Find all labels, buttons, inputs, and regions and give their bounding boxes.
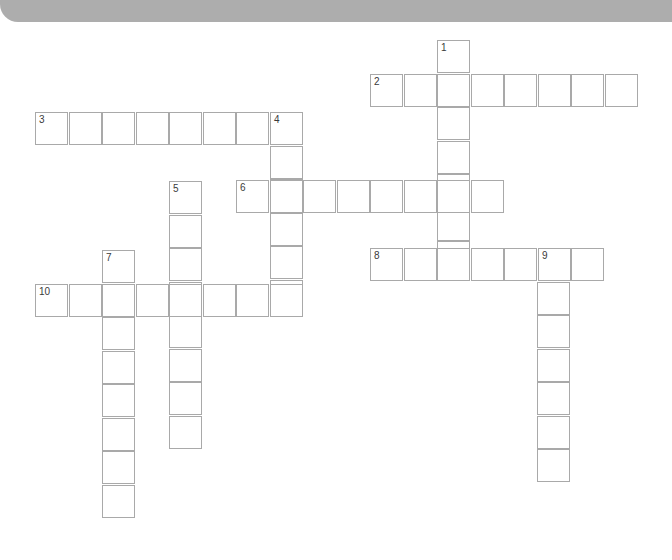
crossword-cell[interactable]	[303, 180, 336, 213]
crossword-cell[interactable]	[136, 284, 169, 317]
crossword-cell[interactable]	[471, 248, 504, 281]
crossword-cell[interactable]	[169, 284, 202, 317]
crossword-cell[interactable]	[102, 112, 135, 145]
crossword-cell[interactable]	[538, 74, 571, 107]
crossword-cell[interactable]	[537, 416, 570, 449]
clue-number: 7	[106, 253, 112, 263]
clue-number: 4	[274, 115, 280, 125]
crossword-cell[interactable]	[69, 112, 102, 145]
crossword-cell[interactable]	[270, 213, 303, 246]
crossword-cell[interactable]	[236, 112, 269, 145]
crossword-cell[interactable]	[471, 180, 504, 213]
crossword-cell[interactable]	[404, 180, 437, 213]
crossword-cell[interactable]	[102, 418, 135, 451]
crossword-cell[interactable]	[102, 485, 135, 518]
crossword-cell[interactable]	[169, 215, 202, 248]
crossword-cell[interactable]	[404, 248, 437, 281]
crossword-cell[interactable]: 2	[370, 74, 403, 107]
crossword-cell[interactable]: 6	[236, 180, 269, 213]
crossword-cell[interactable]	[169, 416, 202, 449]
crossword-cell[interactable]: 7	[102, 250, 135, 283]
crossword-cell[interactable]	[537, 315, 570, 348]
crossword-cell[interactable]	[203, 284, 236, 317]
crossword-cell[interactable]	[370, 180, 403, 213]
crossword-cell[interactable]	[169, 382, 202, 415]
crossword-cell[interactable]	[537, 382, 570, 415]
crossword-cell[interactable]	[537, 349, 570, 382]
crossword-cell[interactable]: 10	[35, 284, 68, 317]
crossword-cell[interactable]	[537, 282, 570, 315]
crossword-cell[interactable]	[270, 180, 303, 213]
crossword-cell[interactable]: 4	[270, 112, 303, 145]
crossword-cell[interactable]	[102, 384, 135, 417]
crossword-cell[interactable]	[537, 449, 570, 482]
crossword-cell[interactable]	[437, 141, 470, 174]
crossword-cell[interactable]	[102, 317, 135, 350]
crossword-cell[interactable]	[203, 112, 236, 145]
crossword-cell[interactable]	[437, 74, 470, 107]
clue-number: 5	[173, 184, 179, 194]
crossword-cell[interactable]	[404, 74, 437, 107]
crossword-cell[interactable]	[102, 351, 135, 384]
crossword-cell[interactable]	[605, 74, 638, 107]
crossword-cell[interactable]	[102, 284, 135, 317]
crossword-cell[interactable]	[136, 112, 169, 145]
crossword-cell[interactable]: 1	[437, 40, 470, 73]
crossword-cell[interactable]	[270, 146, 303, 179]
clue-number: 2	[374, 77, 380, 87]
crossword-cell[interactable]: 3	[35, 112, 68, 145]
crossword-grid: 12345678910	[0, 0, 672, 560]
crossword-cell[interactable]	[437, 248, 470, 281]
crossword-cell[interactable]	[270, 246, 303, 279]
crossword-cell[interactable]	[169, 248, 202, 281]
crossword-cell[interactable]	[571, 74, 604, 107]
crossword-cell[interactable]	[236, 284, 269, 317]
crossword-cell[interactable]	[169, 112, 202, 145]
clue-number: 6	[240, 183, 246, 193]
clue-number: 3	[39, 115, 45, 125]
crossword-cell[interactable]	[437, 107, 470, 140]
crossword-cell[interactable]	[504, 248, 537, 281]
crossword-cell[interactable]	[337, 180, 370, 213]
crossword-cell[interactable]	[102, 451, 135, 484]
crossword-cell[interactable]	[504, 74, 537, 107]
crossword-cell[interactable]: 5	[169, 181, 202, 214]
crossword-cell[interactable]	[471, 74, 504, 107]
crossword-cell[interactable]	[169, 315, 202, 348]
crossword-cell[interactable]: 8	[370, 248, 403, 281]
clue-number: 10	[39, 287, 50, 297]
clue-number: 9	[542, 251, 548, 261]
crossword-cell[interactable]	[571, 248, 604, 281]
crossword-cell[interactable]	[437, 180, 470, 213]
crossword-cell[interactable]	[69, 284, 102, 317]
clue-number: 1	[441, 43, 447, 53]
clue-number: 8	[374, 251, 380, 261]
crossword-cell[interactable]	[169, 349, 202, 382]
crossword-cell[interactable]	[270, 284, 303, 317]
crossword-cell[interactable]: 9	[538, 248, 571, 281]
